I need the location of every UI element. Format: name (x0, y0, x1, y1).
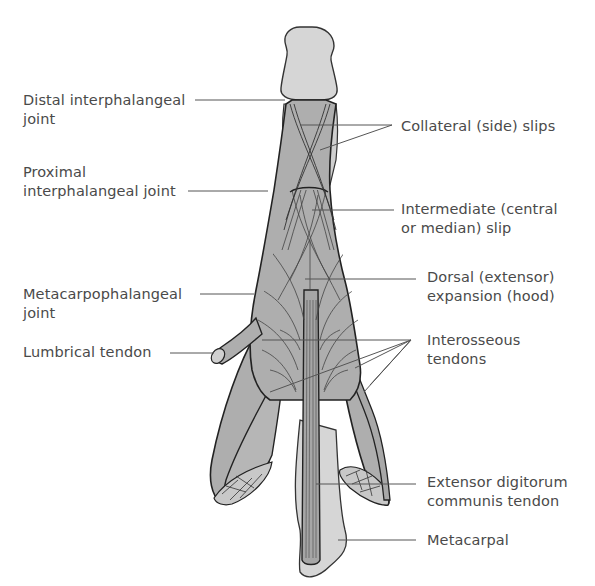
label-line: Distal interphalangeal (23, 91, 185, 110)
label-line: interphalangeal joint (23, 182, 176, 201)
label-line: tendons (427, 350, 520, 369)
edc-tendon (302, 290, 320, 565)
label-distal-ip-joint: Distal interphalangeal joint (23, 91, 185, 129)
label-line: Metacarpophalangeal (23, 285, 182, 304)
label-metacarpal: Metacarpal (427, 531, 509, 550)
label-line: joint (23, 304, 182, 323)
label-line: Extensor digitorum (427, 473, 568, 492)
label-line: communis tendon (427, 492, 568, 511)
anatomy-figure: Distal interphalangeal joint Proximal in… (0, 0, 595, 586)
label-lumbrical-tendon: Lumbrical tendon (23, 343, 152, 362)
label-line: Proximal (23, 163, 176, 182)
label-line: Intermediate (central (401, 200, 558, 219)
distal-phalanx (281, 27, 337, 100)
label-line: joint (23, 110, 185, 129)
label-line: Metacarpal (427, 531, 509, 550)
label-line: Collateral (side) slips (401, 117, 555, 136)
label-line: Dorsal (extensor) (427, 268, 555, 287)
label-intermediate-slip: Intermediate (central or median) slip (401, 200, 558, 238)
label-edc-tendon: Extensor digitorum communis tendon (427, 473, 568, 511)
label-line: Interosseous (427, 331, 520, 350)
label-dorsal-expansion: Dorsal (extensor) expansion (hood) (427, 268, 555, 306)
label-proximal-ip-joint: Proximal interphalangeal joint (23, 163, 176, 201)
label-line: or median) slip (401, 219, 558, 238)
label-line: expansion (hood) (427, 287, 555, 306)
label-mcp-joint: Metacarpophalangeal joint (23, 285, 182, 323)
label-interosseous-tendons: Interosseous tendons (427, 331, 520, 369)
label-collateral-slips: Collateral (side) slips (401, 117, 555, 136)
label-line: Lumbrical tendon (23, 343, 152, 362)
